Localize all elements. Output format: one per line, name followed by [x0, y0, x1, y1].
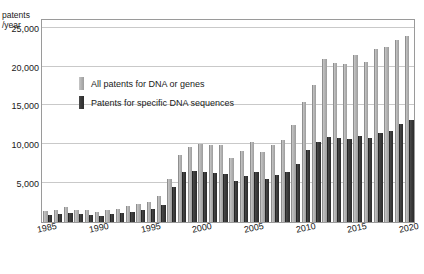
- bar-group: [302, 20, 310, 222]
- bar-group: [54, 20, 62, 222]
- x-tick-label: 2000: [191, 221, 213, 235]
- bar-specific-sequences: [89, 215, 94, 222]
- bar-group: [116, 20, 124, 222]
- x-tick-label: 1995: [140, 221, 162, 235]
- legend-item-specific-sequences: Patents for specific DNA sequences: [79, 96, 234, 109]
- bar-group: [43, 20, 51, 222]
- bar-specific-sequences: [337, 138, 342, 222]
- bar-specific-sequences: [182, 172, 187, 222]
- bar-specific-sequences: [368, 138, 373, 222]
- bar-group: [374, 20, 382, 222]
- bar-specific-sequences: [275, 175, 280, 222]
- bar-specific-sequences: [378, 133, 383, 222]
- bar-group: [157, 20, 165, 222]
- y-axis-tick-labels: 5,00010,00015,00020,00025,000: [0, 19, 41, 223]
- x-tick-label: 2020: [398, 221, 420, 235]
- bar-specific-sequences: [285, 172, 290, 223]
- bar-group: [167, 20, 175, 222]
- bar-group: [250, 20, 258, 222]
- bar-group: [64, 20, 72, 222]
- bar-specific-sequences: [399, 124, 404, 222]
- bar-specific-sequences: [110, 214, 115, 222]
- bar-specific-sequences: [234, 181, 239, 222]
- bar-group: [271, 20, 279, 222]
- x-tick-label: 2005: [243, 221, 265, 235]
- legend-item-all-patents: All patents for DNA or genes: [79, 77, 234, 90]
- legend-swatch-all-patents-icon: [79, 77, 84, 90]
- legend-swatch-specific-sequences-icon: [79, 96, 84, 109]
- bar-specific-sequences: [244, 176, 249, 222]
- bar-group: [364, 20, 372, 222]
- bar-specific-sequences: [213, 173, 218, 222]
- chart-legend: All patents for DNA or genes Patents for…: [79, 77, 234, 115]
- bar-group: [384, 20, 392, 222]
- bar-specific-sequences: [172, 187, 177, 222]
- bar-specific-sequences: [151, 209, 156, 222]
- bar-specific-sequences: [58, 214, 63, 222]
- bar-group: [333, 20, 341, 222]
- patents-bar-chart-figure: patents /year 5,00010,00015,00020,00025,…: [0, 0, 424, 274]
- bar-specific-sequences: [306, 150, 311, 222]
- x-tick-label: 2015: [346, 221, 368, 235]
- bar-group: [136, 20, 144, 222]
- bar-group: [178, 20, 186, 222]
- bar-group: [343, 20, 351, 222]
- bar-specific-sequences: [68, 213, 73, 222]
- y-tick-label: 10,000: [2, 140, 41, 150]
- y-tick-label: 5,000: [2, 179, 41, 189]
- bar-group: [105, 20, 113, 222]
- y-tick-label: 25,000: [2, 24, 41, 34]
- bar-group: [291, 20, 299, 222]
- legend-label-specific-sequences: Patents for specific DNA sequences: [91, 98, 234, 108]
- bar-group: [147, 20, 155, 222]
- bar-specific-sequences: [203, 172, 208, 222]
- bar-specific-sequences: [141, 210, 146, 222]
- bar-group: [219, 20, 227, 222]
- bar-specific-sequences: [327, 137, 332, 222]
- bar-group: [312, 20, 320, 222]
- bar-group: [209, 20, 217, 222]
- x-tick-label: 1990: [88, 221, 110, 235]
- bar-group: [95, 20, 103, 222]
- bar-group: [85, 20, 93, 222]
- bar-specific-sequences: [358, 136, 363, 222]
- bar-group: [188, 20, 196, 222]
- bar-group: [353, 20, 361, 222]
- x-tick-label: 2010: [295, 221, 317, 235]
- bar-group: [229, 20, 237, 222]
- bar-specific-sequences: [265, 179, 270, 223]
- bar-group: [395, 20, 403, 222]
- y-tick-label: 20,000: [2, 63, 41, 73]
- bar-specific-sequences: [130, 212, 135, 222]
- plot-frame: All patents for DNA or genes Patents for…: [41, 19, 415, 223]
- bar-specific-sequences: [254, 172, 259, 222]
- bar-specific-sequences: [79, 214, 84, 222]
- bar-group: [198, 20, 206, 222]
- bar-specific-sequences: [223, 174, 228, 222]
- bar-specific-sequences: [347, 139, 352, 222]
- y-tick-label: 15,000: [2, 101, 41, 111]
- bar-group: [405, 20, 413, 222]
- bar-specific-sequences: [161, 205, 166, 222]
- bar-group: [126, 20, 134, 222]
- bar-group: [74, 20, 82, 222]
- legend-label-all-patents: All patents for DNA or genes: [91, 79, 205, 89]
- plot-area: [42, 20, 414, 222]
- bar-specific-sequences: [316, 142, 321, 222]
- bar-specific-sequences: [409, 120, 414, 222]
- bar-specific-sequences: [120, 213, 125, 222]
- bar-group: [260, 20, 268, 222]
- bar-group: [322, 20, 330, 222]
- bar-specific-sequences: [192, 171, 197, 222]
- bar-specific-sequences: [296, 164, 301, 222]
- bar-group: [281, 20, 289, 222]
- bar-group: [240, 20, 248, 222]
- bar-specific-sequences: [389, 131, 394, 222]
- x-axis-tick-labels: 19851990199520002005201020152020: [41, 223, 415, 271]
